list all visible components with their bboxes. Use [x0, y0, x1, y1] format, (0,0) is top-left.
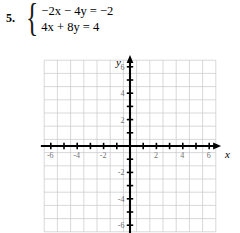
- y-tick-label: -4: [118, 195, 125, 204]
- x-tick-label: -2: [100, 151, 107, 160]
- y-tick-label: 2: [121, 116, 125, 125]
- x-tick-label: 4: [180, 151, 184, 160]
- x-tick-label: -4: [73, 151, 80, 160]
- x-axis-label: x: [224, 148, 230, 160]
- coordinate-plane-svg: -6-4-2246642-2-4-6 xy: [0, 0, 240, 233]
- y-axis-label: y: [115, 56, 121, 68]
- x-tick-label: -6: [47, 151, 54, 160]
- x-tick-label: 6: [207, 151, 211, 160]
- axis-name-layer: xy: [115, 56, 230, 160]
- y-tick-label: 4: [121, 89, 125, 98]
- worksheet-problem: 5. { −2x − 4y = −2 4x + 8y = 4 -6-4-2246…: [0, 0, 240, 233]
- y-tick-label: -2: [118, 168, 125, 177]
- axes-layer: [41, 55, 221, 233]
- x-tick-label: 2: [154, 151, 158, 160]
- y-tick-label: 6: [121, 63, 125, 72]
- y-axis-arrowhead: [127, 55, 134, 63]
- y-tick-label: -6: [118, 221, 125, 230]
- x-axis-arrowhead: [213, 143, 221, 150]
- coordinate-plane: -6-4-2246642-2-4-6 xy: [0, 0, 240, 233]
